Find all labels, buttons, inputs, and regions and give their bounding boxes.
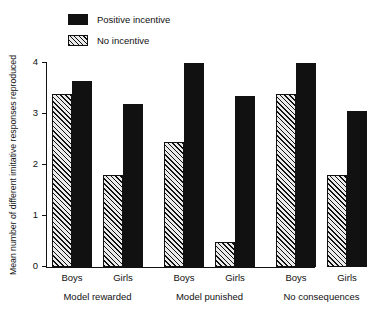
legend-item-no-incentive: No incentive xyxy=(68,33,238,47)
legend-swatch-hatched-icon xyxy=(68,35,88,46)
y-axis-tick-label: 3 xyxy=(33,107,38,119)
bar-positive-incentive xyxy=(235,96,255,267)
bar-positive-incentive xyxy=(296,63,316,267)
legend-swatch-solid-icon xyxy=(68,14,88,25)
bar-no-incentive xyxy=(215,242,235,268)
bar-positive-incentive xyxy=(347,111,367,267)
bar-positive-incentive xyxy=(72,81,92,267)
bar-positive-incentive xyxy=(184,63,204,267)
bar-no-incentive xyxy=(164,142,184,267)
x-axis-tick-label: Boys xyxy=(285,272,306,284)
x-axis-tick-label: Boys xyxy=(61,272,82,284)
x-axis-group-label: Model punished xyxy=(176,291,243,303)
chart-legend: Positive incentive No incentive xyxy=(68,12,238,54)
x-axis-tick-label: Girls xyxy=(225,272,245,284)
bar-no-incentive xyxy=(327,175,347,267)
legend-label-no-incentive: No incentive xyxy=(97,35,149,46)
y-axis-tick-label: 2 xyxy=(33,158,38,170)
x-axis-tick-label: Girls xyxy=(113,272,133,284)
bar-no-incentive xyxy=(276,94,296,267)
legend-label-positive-incentive: Positive incentive xyxy=(97,14,170,25)
plot-area: Mean number of different imitative respo… xyxy=(46,63,315,268)
y-axis-tick-label: 4 xyxy=(33,56,38,68)
bar-no-incentive xyxy=(52,94,72,267)
x-axis-tick-label: Girls xyxy=(337,272,357,284)
legend-item-positive-incentive: Positive incentive xyxy=(68,12,238,26)
bar-positive-incentive xyxy=(123,104,143,267)
x-axis-tick-label: Boys xyxy=(173,272,194,284)
y-axis-title: Mean number of different imitative respo… xyxy=(8,55,18,275)
x-axis-group-label: Model rewarded xyxy=(63,291,131,303)
bars-container xyxy=(47,63,315,267)
bar-no-incentive xyxy=(103,175,123,267)
y-axis-tick-label: 1 xyxy=(33,209,38,221)
x-axis-group-label: No consequences xyxy=(283,291,359,303)
y-axis-tick-label: 0 xyxy=(33,260,38,272)
